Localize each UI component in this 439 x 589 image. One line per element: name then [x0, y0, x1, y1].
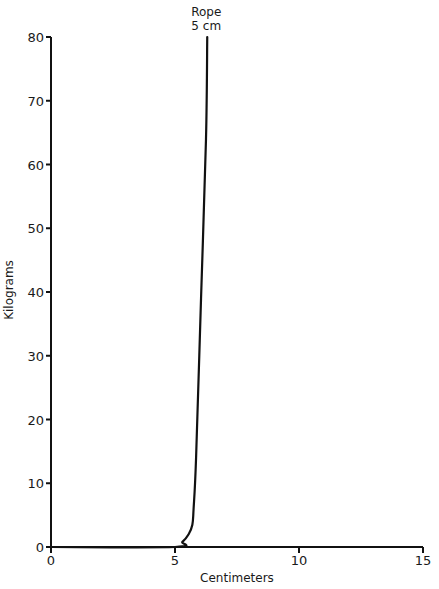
y-tick-label: 50 — [27, 221, 44, 236]
force-extension-chart: 01020304050607080051015 Rope 5 cm Centim… — [0, 0, 439, 589]
series-annotation-line1: Rope — [191, 5, 221, 19]
y-tick-label: 0 — [36, 540, 44, 555]
y-tick-label: 10 — [27, 476, 44, 491]
series-line-rope — [51, 37, 207, 547]
y-tick-label: 20 — [27, 413, 44, 428]
x-axis-title: Centimeters — [200, 571, 274, 585]
y-axis-title: Kilograms — [2, 260, 16, 320]
y-tick-label: 80 — [27, 30, 44, 45]
y-tick-label: 40 — [27, 285, 44, 300]
axes — [50, 37, 423, 548]
series-annotation-line2: 5 cm — [191, 19, 221, 33]
y-tick-label: 70 — [27, 94, 44, 109]
x-tick-label: 10 — [291, 553, 308, 568]
data-series — [51, 37, 207, 547]
y-tick-label: 30 — [27, 349, 44, 364]
x-tick-label: 5 — [171, 553, 179, 568]
x-tick-label: 0 — [47, 553, 55, 568]
tick-marks: 01020304050607080051015 — [27, 30, 431, 568]
x-tick-label: 15 — [415, 553, 432, 568]
y-tick-label: 60 — [27, 158, 44, 173]
